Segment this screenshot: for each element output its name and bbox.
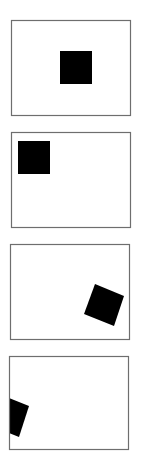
- panel-4: [9, 356, 129, 450]
- panel-background: [9, 356, 128, 449]
- panel-sequence-diagram: [0, 0, 146, 465]
- panel-3: [10, 244, 130, 340]
- black-square-shape: [18, 141, 50, 174]
- panel-1: [11, 20, 131, 116]
- black-square-shape: [60, 51, 92, 84]
- panel-2: [11, 132, 131, 228]
- figure: [0, 0, 146, 465]
